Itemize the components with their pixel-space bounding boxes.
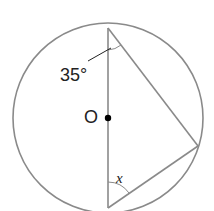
angle-bottom-label: x: [115, 170, 123, 186]
center-dot: [105, 115, 111, 121]
center-label: O: [84, 107, 98, 127]
circle-diagram: 35° O x: [0, 0, 214, 211]
angle-arc-top: [108, 45, 121, 50]
angle-top-label: 35°: [60, 65, 87, 85]
chord-top-right: [108, 28, 198, 146]
